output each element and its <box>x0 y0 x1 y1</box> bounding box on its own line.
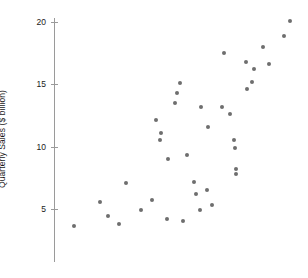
scatter-point <box>106 214 110 218</box>
scatter-point <box>178 81 182 85</box>
scatter-point <box>199 105 203 109</box>
scatter-point <box>173 101 177 105</box>
scatter-point <box>261 45 265 49</box>
scatter-point <box>139 208 143 212</box>
scatter-point <box>282 34 286 38</box>
y-axis-label-text: Quarterly Sales ($ billion) <box>0 90 7 188</box>
scatter-point <box>117 222 121 226</box>
scatter-point <box>250 80 254 84</box>
scatter-point <box>228 112 232 116</box>
scatter-point <box>205 188 209 192</box>
y-tick-label: 5 <box>20 204 46 214</box>
scatter-point <box>267 62 271 66</box>
scatter-point <box>159 131 163 135</box>
scatter-point <box>233 146 237 150</box>
scatter-point <box>166 157 170 161</box>
y-tick-label: 15 <box>20 79 46 89</box>
y-tick-label: 20 <box>20 17 46 27</box>
scatter-point <box>165 217 169 221</box>
scatter-point <box>154 118 158 122</box>
scatter-point <box>220 105 224 109</box>
scatter-point <box>175 91 179 95</box>
y-axis-spine <box>54 18 55 262</box>
y-axis-label: Quarterly Sales ($ billion) <box>0 0 16 278</box>
scatter-point <box>72 224 76 228</box>
scatter-point <box>234 167 238 171</box>
scatter-point <box>98 200 102 204</box>
scatter-point <box>222 51 226 55</box>
scatter-point <box>288 19 292 23</box>
scatter-point <box>232 138 236 142</box>
scatter-chart: Quarterly Sales ($ billion) 5101520 <box>0 0 308 278</box>
scatter-point <box>124 181 128 185</box>
scatter-point <box>194 192 198 196</box>
scatter-point <box>234 172 238 176</box>
scatter-point <box>252 67 256 71</box>
scatter-point <box>150 198 154 202</box>
scatter-point <box>206 125 210 129</box>
y-tick-label: 10 <box>20 142 46 152</box>
scatter-point <box>198 208 202 212</box>
scatter-point <box>192 180 196 184</box>
scatter-point <box>210 203 214 207</box>
scatter-point <box>158 138 162 142</box>
scatter-point <box>245 87 249 91</box>
y-axis-ticks: 5101520 <box>0 0 308 278</box>
scatter-point <box>244 60 248 64</box>
scatter-point <box>181 219 185 223</box>
scatter-point <box>185 153 189 157</box>
